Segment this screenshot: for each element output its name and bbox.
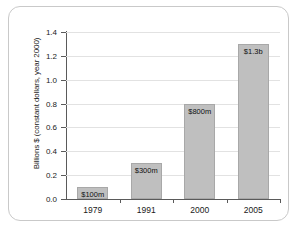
y-tick-label: 0.6 (33, 123, 57, 132)
y-tick-label: 1.0 (33, 75, 57, 84)
x-tick-label: 2005 (244, 205, 263, 215)
x-tick-mark (173, 199, 174, 203)
y-tick-label: 0.4 (33, 147, 57, 156)
x-tick-label: 2000 (190, 205, 209, 215)
x-tick-mark (227, 199, 228, 203)
bar (184, 104, 215, 199)
bar-value-label: $300m (135, 166, 158, 175)
y-tick-mark (61, 199, 66, 200)
x-tick-label: 1979 (83, 205, 102, 215)
gridline (66, 32, 280, 33)
y-tick-label: 1.4 (33, 28, 57, 37)
bar-value-label: $800m (188, 107, 211, 116)
bar (238, 44, 269, 199)
x-tick-mark (120, 199, 121, 203)
bar-value-label: $100m (81, 190, 104, 199)
bar-value-label: $1.3b (244, 47, 263, 56)
y-tick-label: 0.8 (33, 99, 57, 108)
y-tick-label: 1.2 (33, 51, 57, 60)
x-tick-label: 1991 (137, 205, 156, 215)
x-tick-mark (280, 199, 281, 203)
y-tick-label: 0.0 (33, 195, 57, 204)
y-tick-label: 0.2 (33, 171, 57, 180)
chart-frame: Billions $ (constant dollars, year 2000)… (8, 6, 289, 221)
